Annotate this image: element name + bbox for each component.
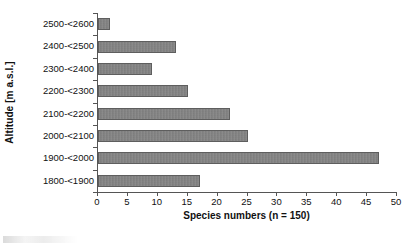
- x-tick-label: 45: [361, 196, 372, 207]
- x-tick-label: 0: [94, 196, 99, 207]
- y-tick-label: 2000-<2100: [43, 125, 94, 147]
- x-axis-tick-labels: 05101520253035404550: [97, 196, 396, 209]
- bar-2000-2100: [98, 130, 248, 142]
- bar-row: [98, 58, 152, 80]
- x-tick-label: 40: [331, 196, 342, 207]
- bar-row: [98, 170, 200, 192]
- x-tick-label: 30: [271, 196, 282, 207]
- bar-row: [98, 13, 110, 35]
- x-tick-label: 15: [181, 196, 192, 207]
- x-tick-label: 10: [152, 196, 163, 207]
- y-axis-title-text: Altitude [m a.s.l.]: [4, 61, 15, 143]
- bar-2100-2200: [98, 108, 230, 120]
- y-tick-label: 2300-<2400: [43, 58, 94, 80]
- bar-1900-2000: [98, 152, 379, 164]
- bar-2400-2500: [98, 41, 176, 53]
- bar-row: [98, 80, 188, 102]
- y-tick-mark: [93, 170, 97, 171]
- y-tick-label: 2100-<2200: [43, 103, 94, 125]
- y-tick-mark: [93, 58, 97, 59]
- y-tick-label: 2200-<2300: [43, 80, 94, 102]
- bar-2300-2400: [98, 63, 152, 75]
- y-axis-tick-labels: 2500-<2600 2400-<2500 2300-<2400 2200-<2…: [18, 13, 97, 192]
- x-tick-label: 5: [124, 196, 129, 207]
- y-tick-mark: [93, 147, 97, 148]
- bar-row: [98, 35, 176, 57]
- scan-artifact: [3, 236, 77, 243]
- x-tick-label: 35: [301, 196, 312, 207]
- x-tick-label: 20: [211, 196, 222, 207]
- plot-area: [97, 13, 396, 192]
- y-tick-mark: [93, 125, 97, 126]
- y-tick-mark: [93, 13, 97, 14]
- x-axis-title: Species numbers (n = 150): [97, 210, 396, 221]
- y-tick-mark: [93, 103, 97, 104]
- bar-row: [98, 103, 230, 125]
- y-axis-title: Altitude [m a.s.l.]: [0, 13, 18, 192]
- bar-row: [98, 147, 379, 169]
- y-tick-mark: [93, 80, 97, 81]
- y-tick-label: 2400-<2500: [43, 35, 94, 57]
- species-altitude-bar-chart: Altitude [m a.s.l.] 2500-<2600 2400-<250…: [0, 0, 412, 245]
- y-tick-mark: [93, 35, 97, 36]
- y-tick-label: 1800-<1900: [43, 170, 94, 192]
- x-tick-label: 50: [391, 196, 402, 207]
- bar-2500-2600: [98, 18, 110, 30]
- y-tick-label: 2500-<2600: [43, 13, 94, 35]
- bar-1800-1900: [98, 175, 200, 187]
- x-tick-label: 25: [241, 196, 252, 207]
- y-tick-label: 1900-<2000: [43, 147, 94, 169]
- bar-row: [98, 125, 248, 147]
- bar-2200-2300: [98, 85, 188, 97]
